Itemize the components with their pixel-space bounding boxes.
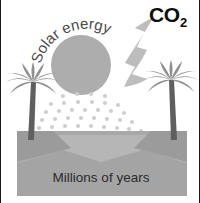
co2-label: CO2 xyxy=(149,4,187,29)
co2-subscript: 2 xyxy=(180,15,187,30)
sun-icon xyxy=(51,35,111,95)
co2-formula-text: CO xyxy=(149,3,180,26)
fossil-fuel-formation-figure: Solar energy xyxy=(0,0,200,203)
millions-of-years-caption: Millions of years xyxy=(1,170,200,185)
